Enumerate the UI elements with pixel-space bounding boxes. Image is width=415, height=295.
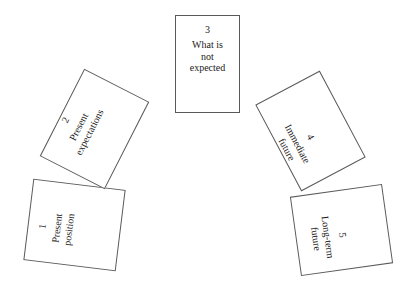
diagram-card-4[interactable]: 4 Immediate future — [255, 71, 365, 192]
card-1-number: 1 — [36, 223, 48, 229]
card-2-number: 2 — [59, 115, 72, 125]
card-3-label-line-3: expected — [190, 62, 226, 74]
card-3-label-line-1: What is — [192, 39, 223, 51]
diagram-card-5[interactable]: 5 Long-term future — [290, 184, 393, 276]
card-5-text-block: 5 Long-term future — [307, 213, 351, 261]
diagram-card-1[interactable]: 1 Present position — [23, 179, 125, 272]
card-5-label-line-2: future — [308, 226, 323, 251]
diagram-card-3[interactable]: 3 What is not expected — [175, 15, 240, 113]
diagram-canvas: 1 Present position 2 Present expectation… — [0, 0, 415, 295]
card-1-text-block: 1 Present position — [34, 210, 76, 247]
diagram-card-2[interactable]: 2 Present expectations — [40, 69, 150, 189]
card-3-label-line-2: not — [201, 51, 214, 63]
card-4-number: 4 — [304, 132, 317, 142]
card-4-text-block: 4 Immediate future — [271, 115, 325, 171]
card-3-number: 3 — [205, 24, 210, 36]
card-3-text-block: 3 What is not expected — [190, 16, 226, 74]
card-2-text-block: 2 Present expectations — [49, 95, 106, 157]
card-5-number: 5 — [336, 232, 348, 239]
